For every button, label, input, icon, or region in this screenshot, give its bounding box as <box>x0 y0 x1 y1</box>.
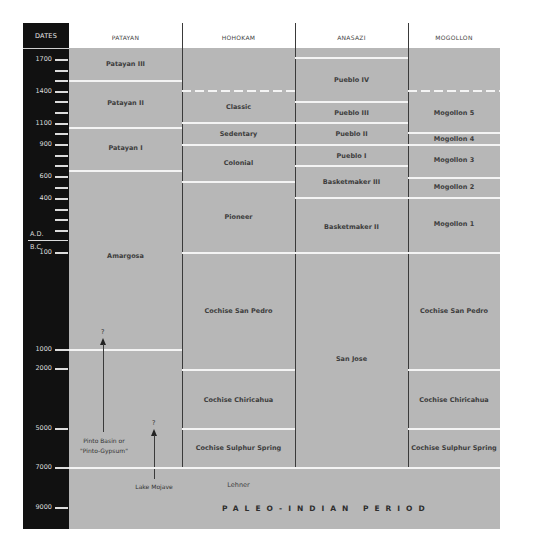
mogollon-divider <box>408 177 500 179</box>
hohokam-divider <box>182 369 295 371</box>
note-pinto-line1: Pinto Basin or <box>69 436 139 446</box>
phase-cochise-san-pedro: Cochise San Pedro <box>182 304 295 318</box>
timeline-tick <box>55 209 68 211</box>
timeline-tick-label: 1400 <box>16 87 52 95</box>
paleo-indian-divider <box>69 467 500 469</box>
patayan-divider <box>69 127 182 129</box>
timeline-tick-label: 5000 <box>16 424 52 432</box>
mogollon-divider <box>408 197 500 199</box>
timeline-tick-label: 9000 <box>16 503 52 511</box>
timeline-tick <box>55 230 68 232</box>
ad-label: A.D. <box>30 230 43 238</box>
timeline-tick <box>55 70 68 72</box>
question-mark: ? <box>101 328 104 336</box>
anasazi-divider <box>295 252 408 254</box>
mogollon-dashed-divider <box>408 90 500 92</box>
column-header-patayan: PATAYAN <box>69 30 182 44</box>
timeline-tick <box>55 467 69 469</box>
patayan-divider <box>69 349 182 351</box>
dates-header: DATES <box>23 23 69 48</box>
timeline-tick <box>55 368 68 370</box>
timeline-tick <box>55 155 68 157</box>
ad-bc-divider <box>28 240 68 241</box>
timeline-tick-label: 7000 <box>16 463 52 471</box>
timeline-tick <box>55 165 68 167</box>
date-axis-bar <box>23 23 69 529</box>
phase-patayan-i: Patayan I <box>69 141 182 155</box>
mogollon-divider <box>408 144 500 146</box>
timeline-tick <box>55 507 68 509</box>
phase-cochise-chiricahua: Cochise Chiricahua <box>182 393 295 407</box>
timeline-tick <box>55 80 68 82</box>
timeline-tick <box>55 133 68 135</box>
phase-cochise-san-pedro-mogollon: Cochise San Pedro <box>408 304 500 318</box>
phase-mogollon-4: Mogollon 4 <box>408 133 500 144</box>
phase-mogollon-2: Mogollon 2 <box>408 180 500 194</box>
mogollon-divider <box>408 252 500 254</box>
hohokam-divider <box>182 181 295 183</box>
phase-sedentary: Sedentary <box>182 127 295 141</box>
dates-header-divider <box>23 48 69 49</box>
anasazi-divider <box>295 144 408 146</box>
phase-mogollon-5: Mogollon 5 <box>408 106 500 120</box>
phase-pueblo-i: Pueblo I <box>295 149 408 163</box>
timeline-tick-label: 900 <box>16 140 52 148</box>
hohokam-divider <box>182 122 295 124</box>
phase-amargosa: Amargosa <box>69 249 182 263</box>
timeline-tick-label: 1700 <box>16 55 52 63</box>
timeline-tick <box>55 219 68 221</box>
anasazi-divider <box>295 197 408 199</box>
timeline-tick <box>55 112 68 114</box>
question-mark: ? <box>152 419 155 427</box>
hohokam-divider <box>182 428 295 430</box>
timeline-tick <box>55 187 68 189</box>
hohokam-divider <box>182 144 295 146</box>
phase-classic: Classic <box>182 100 295 114</box>
phase-pioneer: Pioneer <box>182 210 295 224</box>
timeline-tick <box>55 91 68 93</box>
anasazi-divider <box>295 57 408 59</box>
timeline-tick <box>55 428 68 430</box>
phase-basketmaker-ii: Basketmaker II <box>295 220 408 234</box>
hohokam-divider <box>182 252 295 254</box>
timeline-tick <box>55 144 68 146</box>
note-pinto-basin: Pinto Basin or "Pinto-Gypsum" <box>69 436 139 456</box>
phase-pueblo-iii: Pueblo III <box>295 106 408 120</box>
phase-cochise-chiricahua-mogollon: Cochise Chiricahua <box>408 393 500 407</box>
phase-san-jose: San Jose <box>295 352 408 366</box>
timeline-tick-label: 2000 <box>16 364 52 372</box>
phase-colonial: Colonial <box>182 156 295 170</box>
phase-pueblo-iv: Pueblo IV <box>295 73 408 87</box>
timeline-tick-label: 400 <box>16 194 52 202</box>
timeline-tick-label: 1000 <box>16 345 52 353</box>
column-header-mogollon: MOGOLLON <box>408 30 500 44</box>
phase-cochise-sulphur-spring-mogollon: Cochise Sulphur Spring <box>408 441 500 455</box>
phase-basketmaker-iii: Basketmaker III <box>295 175 408 189</box>
phase-mogollon-3: Mogollon 3 <box>408 153 500 167</box>
note-pinto-line2: "Pinto-Gypsum" <box>69 446 139 456</box>
mogollon-divider <box>408 428 500 430</box>
phase-pueblo-ii: Pueblo II <box>295 127 408 141</box>
column-header-anasazi: ANASAZI <box>295 30 408 44</box>
timeline-tick <box>55 123 68 125</box>
phase-patayan-ii: Patayan II <box>69 96 182 110</box>
paleo-indian-label: PALEO-INDIAN PERIOD <box>222 504 431 513</box>
timeline-tick <box>55 101 68 103</box>
column-rule-2 <box>295 23 296 468</box>
timeline-tick <box>55 349 69 351</box>
timeline-tick <box>55 59 68 61</box>
mogollon-divider <box>408 369 500 371</box>
hohokam-dashed-divider <box>182 90 295 92</box>
phase-lehner: Lehner <box>182 478 295 492</box>
timeline-tick-label: 600 <box>16 172 52 180</box>
chronology-area <box>69 48 500 529</box>
timeline-tick <box>55 198 68 200</box>
timeline-tick <box>55 252 68 254</box>
note-lake-mojave: Lake Mojave <box>124 482 184 492</box>
phase-cochise-sulphur-spring: Cochise Sulphur Spring <box>182 441 295 455</box>
timeline-tick <box>55 176 68 178</box>
mojave-arrow-shaft <box>154 435 155 479</box>
anasazi-divider <box>295 122 408 124</box>
patayan-divider <box>69 80 182 82</box>
anasazi-divider <box>295 101 408 103</box>
